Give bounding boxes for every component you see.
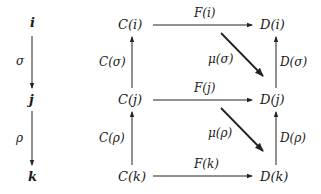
object-D-k: D(k) xyxy=(259,169,288,184)
label-C-sigma: C(σ) xyxy=(99,55,126,69)
label-F-k: F(k) xyxy=(193,157,219,171)
object-i: i xyxy=(30,15,35,30)
object-D-i: D(i) xyxy=(259,17,285,32)
object-j: j xyxy=(26,92,34,107)
object-C-j: C(j) xyxy=(118,92,142,107)
label-D-sigma: D(σ) xyxy=(279,55,307,69)
label-rho: ρ xyxy=(15,131,23,145)
object-D-j: D(j) xyxy=(259,92,285,107)
commutative-diagram: i j k σ ρ C(i) C(j) C(k) C(σ) C(ρ) F(i) … xyxy=(0,0,321,194)
label-F-j: F(j) xyxy=(193,81,216,95)
label-sigma: σ xyxy=(16,54,25,68)
label-D-rho: D(ρ) xyxy=(279,131,306,145)
label-mu-rho: μ(ρ) xyxy=(208,126,233,140)
object-C-k: C(k) xyxy=(118,169,146,184)
object-k: k xyxy=(28,169,37,184)
label-C-rho: C(ρ) xyxy=(99,131,125,145)
label-F-i: F(i) xyxy=(193,6,216,20)
label-mu-sigma: μ(σ) xyxy=(208,52,234,66)
object-C-i: C(i) xyxy=(118,17,142,32)
